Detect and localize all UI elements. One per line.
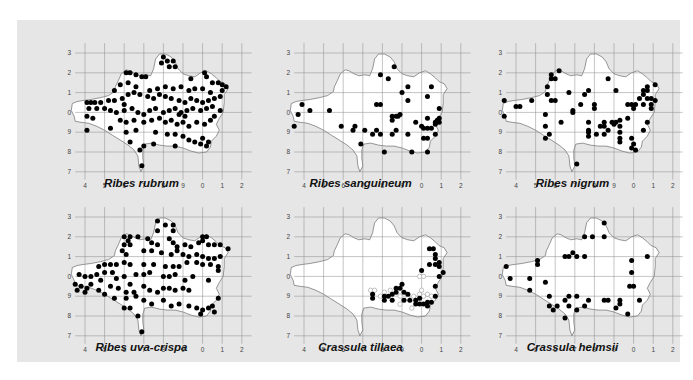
species-title: Crassula tillaea: [248, 341, 473, 353]
record-dot: [165, 58, 170, 63]
old-record-dot: [421, 274, 425, 278]
record-dot: [582, 304, 587, 309]
y-tick-label: 8: [499, 148, 503, 155]
record-dot: [613, 306, 618, 311]
species-title: Ribes uva-crispa: [29, 341, 254, 353]
distribution-map: 4567890123210987: [248, 192, 473, 342]
record-dot: [602, 220, 607, 225]
y-tick-label: 3: [499, 213, 503, 220]
record-dot: [545, 84, 550, 89]
record-dot: [184, 260, 189, 265]
record-dot: [586, 88, 591, 93]
record-dot: [405, 132, 410, 137]
record-dot: [153, 106, 158, 111]
record-dot: [163, 120, 168, 125]
record-dot: [582, 92, 587, 97]
record-dot: [114, 262, 119, 267]
record-dot: [157, 92, 162, 97]
record-dot: [163, 222, 168, 227]
record-dot: [425, 94, 430, 99]
record-dot: [370, 296, 375, 301]
record-dot: [210, 304, 215, 309]
record-dot: [502, 114, 507, 119]
record-dot: [175, 248, 180, 253]
record-dot: [574, 254, 579, 259]
record-dot: [226, 246, 231, 251]
record-dot: [112, 98, 117, 103]
record-dot: [574, 308, 579, 313]
record-dot: [212, 310, 217, 315]
record-dot: [194, 120, 199, 125]
record-dot: [106, 98, 111, 103]
record-dot: [128, 262, 133, 267]
record-dot: [206, 140, 211, 145]
record-dot: [133, 84, 138, 89]
record-dot: [159, 250, 164, 255]
record-dot: [433, 294, 438, 299]
record-dot: [200, 100, 205, 105]
record-dot: [167, 64, 172, 69]
record-dot: [171, 222, 176, 227]
record-dot: [155, 228, 160, 233]
record-dot: [212, 96, 217, 101]
map-ribes-rubrum: 4567890123210987 Ribes rubrum: [29, 28, 254, 200]
record-dot: [200, 254, 205, 259]
record-dot: [417, 296, 422, 301]
map-ribes-uva-crispa: 4567890123210987 Ribes uva-crispa: [29, 192, 254, 364]
record-dot: [108, 262, 113, 267]
y-tick-label: 8: [68, 312, 72, 319]
y-tick-label: 3: [287, 49, 291, 56]
record-dot: [586, 134, 591, 139]
record-dot: [602, 124, 607, 129]
record-dot: [566, 254, 571, 259]
record-dot: [122, 102, 127, 107]
record-dot: [218, 242, 223, 247]
record-dot: [566, 304, 571, 309]
county-outline: [502, 54, 659, 172]
record-dot: [186, 124, 191, 129]
record-dot: [517, 104, 522, 109]
record-dot: [163, 94, 168, 99]
record-dot: [137, 92, 142, 97]
species-title: Ribes rubrum: [29, 177, 254, 189]
distribution-map: 4567890123210987: [248, 28, 473, 178]
record-dot: [405, 292, 410, 297]
record-dot: [124, 290, 129, 295]
record-dot: [102, 106, 107, 111]
y-tick-label: 7: [287, 168, 291, 175]
record-dot: [386, 76, 391, 81]
record-dot: [339, 124, 344, 129]
record-dot: [578, 102, 583, 107]
record-dot: [637, 96, 642, 101]
record-dot: [118, 82, 123, 87]
record-dot: [504, 264, 509, 269]
record-dot: [86, 106, 91, 111]
y-tick-label: 7: [68, 168, 72, 175]
record-dot: [194, 260, 199, 265]
distribution-map: 4567890123210987: [29, 192, 254, 342]
old-record-dot: [398, 302, 402, 306]
record-dot: [147, 108, 152, 113]
distribution-map: 4567890123210987: [460, 192, 685, 342]
record-dot: [396, 114, 401, 119]
record-dot: [390, 298, 395, 303]
record-dot: [358, 142, 363, 147]
record-dot: [182, 278, 187, 283]
y-tick-label: 2: [499, 233, 503, 240]
record-dot: [186, 138, 191, 143]
record-dot: [527, 288, 532, 293]
record-dot: [405, 98, 410, 103]
y-tick-label: 0: [499, 109, 503, 116]
record-dot: [370, 132, 375, 137]
record-dot: [413, 120, 418, 125]
record-dot: [570, 250, 575, 255]
record-dot: [145, 94, 150, 99]
record-dot: [390, 118, 395, 123]
record-dot: [206, 256, 211, 261]
record-dot: [631, 284, 636, 289]
record-dot: [112, 88, 117, 93]
map-crassula-tillaea: 4567890123210987 Crassula tillaea: [248, 192, 473, 364]
record-dot: [629, 136, 634, 141]
record-dot: [179, 84, 184, 89]
record-dot: [206, 98, 211, 103]
